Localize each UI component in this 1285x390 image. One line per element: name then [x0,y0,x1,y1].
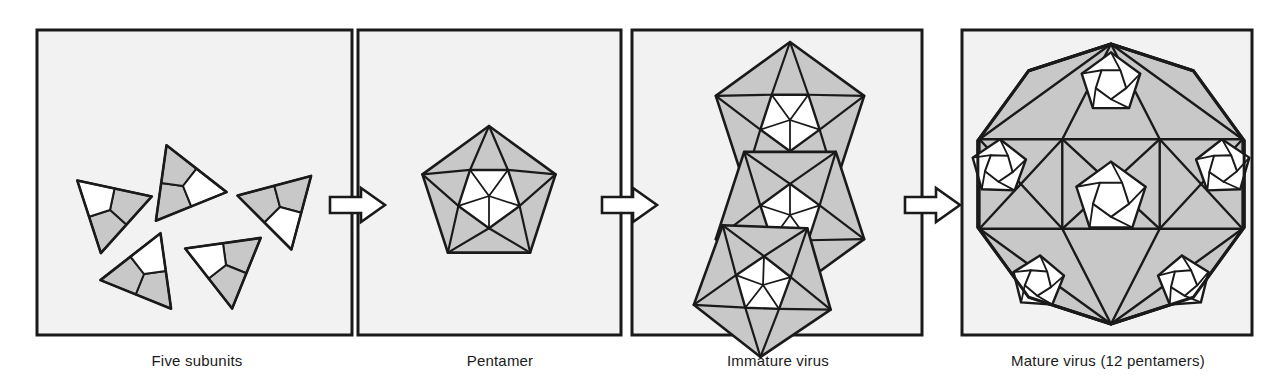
panel-label-mature-virus: Mature virus (12 pentamers) [1011,352,1205,369]
pentamer-spoke [808,239,864,240]
pentamer-spoke [716,95,772,96]
pentamer-spoke [808,95,864,96]
panel-label-five-subunits: Five subunits [152,352,243,369]
pentamer-core-spoke [763,256,764,285]
capsid-pentamer-spoke [1170,287,1171,304]
panel-label-immature-virus: Immature virus [727,352,829,369]
virus-assembly-figure: Five subunitsPentamerImmature virusMatur… [0,0,1285,390]
panel-label-pentamer: Pentamer [467,352,534,369]
pentamer-spoke [779,309,831,310]
pentamer-2 [694,225,831,357]
virus-assembly-svg [0,0,1285,390]
